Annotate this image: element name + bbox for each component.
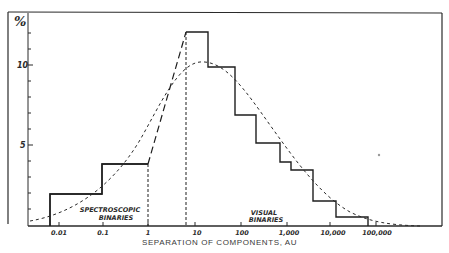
gaussian-fit-curve — [30, 62, 420, 226]
annotations: SPECTROSCOPIC BINARIES VISUAL BINARIES — [80, 206, 284, 224]
x-axis-title: SEPARATION OF COMPONENTS, AU — [142, 238, 297, 247]
x-tick-0.1: 0.1 — [97, 229, 109, 237]
annotation-visual-2: BINARIES — [249, 216, 284, 224]
histogram-steps-right — [186, 32, 368, 226]
y-tick-label-10: 10 — [17, 61, 29, 70]
x-tick-1: 1 — [146, 229, 151, 237]
annotation-spectroscopic-2: BINARIES — [99, 214, 134, 222]
x-tick-1000: 1,000 — [279, 229, 300, 237]
y-tick-label-5: 5 — [20, 141, 26, 150]
x-tick-10000: 10,000 — [320, 229, 346, 237]
histogram-chart: % 10 5 0.01 0.1 1 10 100 1,000 10,000 10… — [0, 0, 449, 253]
y-unit-label: % — [14, 14, 26, 29]
interpolation-dashed-line — [148, 32, 186, 164]
x-tick-labels: 0.01 0.1 1 10 100 1,000 10,000 100,000 — [51, 229, 392, 237]
annotation-spectroscopic: SPECTROSCOPIC — [80, 206, 141, 214]
x-tick-0.01: 0.01 — [51, 229, 67, 237]
speck-mark — [378, 154, 380, 156]
x-tick-100000: 100,000 — [362, 229, 392, 237]
x-tick-10: 10 — [192, 229, 202, 237]
x-tick-100: 100 — [235, 229, 249, 237]
